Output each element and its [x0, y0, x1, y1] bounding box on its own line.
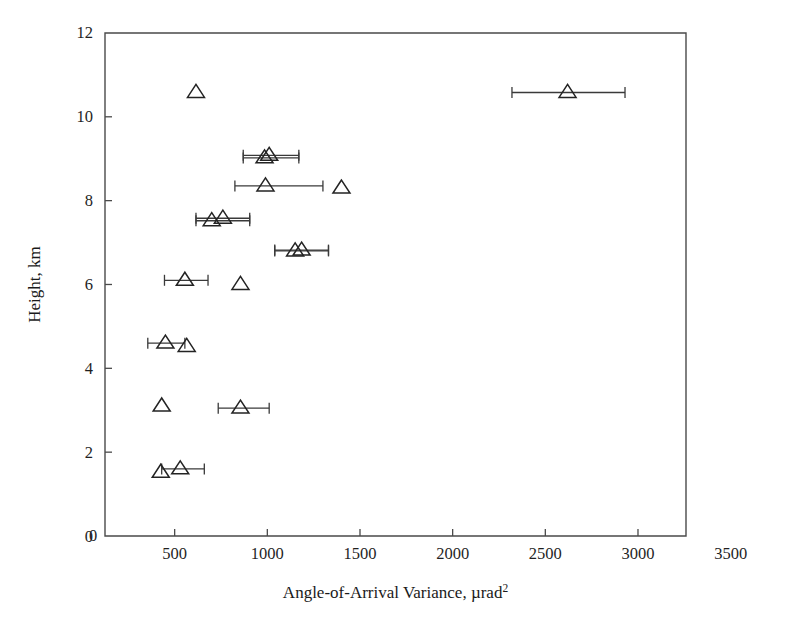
scatter-plot: 0500100015002000250030003500 024681012 A… — [0, 0, 793, 630]
data-point-marker — [232, 400, 249, 413]
x-tick-label: 2000 — [436, 544, 469, 563]
y-tick-label: 4 — [85, 359, 93, 378]
x-tick-label: 2500 — [529, 544, 562, 563]
data-point-marker — [187, 84, 204, 97]
data-point-marker — [157, 335, 174, 348]
y-tick-label: 10 — [77, 107, 94, 126]
x-tick-label: 1000 — [251, 544, 284, 563]
x-axis-title-text: Angle-of-Arrival Variance, µrad2 — [283, 582, 509, 602]
data-markers — [152, 84, 576, 477]
data-point-marker — [178, 338, 195, 351]
data-point-marker — [176, 272, 193, 285]
y-tick-label: 2 — [85, 443, 93, 462]
data-point-marker — [172, 461, 189, 474]
error-bar — [196, 213, 250, 224]
x-axis-title-main: Angle-of-Arrival Variance, µrad — [283, 583, 503, 602]
data-point-marker — [257, 178, 274, 191]
data-point-marker — [287, 243, 304, 256]
x-axis-ticks — [175, 529, 638, 536]
y-axis-ticks — [105, 117, 112, 452]
error-bar — [512, 87, 625, 98]
data-point-marker — [232, 276, 249, 289]
x-tick-label: 1500 — [343, 544, 376, 563]
y-axis-title-text: Height, km — [25, 246, 44, 323]
x-axis-title-superscript: 2 — [502, 582, 508, 594]
error-bar — [164, 275, 208, 286]
y-tick-label: 12 — [77, 23, 94, 42]
x-tick-label: 500 — [162, 544, 187, 563]
data-point-marker — [559, 84, 576, 97]
figure-container: 0500100015002000250030003500 024681012 A… — [0, 0, 793, 630]
error-bar — [148, 338, 185, 349]
error-bar — [235, 180, 323, 191]
y-tick-label: 8 — [85, 191, 93, 210]
error-bar — [243, 152, 299, 163]
y-tick-label: 0 — [85, 527, 93, 546]
x-tick-labels: 0500100015002000250030003500 — [89, 526, 747, 563]
data-point-marker — [333, 180, 350, 193]
y-tick-labels: 024681012 — [77, 23, 94, 545]
data-point-marker — [153, 398, 170, 411]
x-axis-title: Angle-of-Arrival Variance, µrad2 — [283, 582, 509, 602]
x-tick-label: 3500 — [714, 544, 747, 563]
y-tick-label: 6 — [85, 275, 93, 294]
data-point-marker — [152, 464, 169, 477]
x-tick-label: 3000 — [621, 544, 654, 563]
error-bars — [148, 87, 625, 474]
y-axis-title: Height, km — [25, 246, 44, 323]
